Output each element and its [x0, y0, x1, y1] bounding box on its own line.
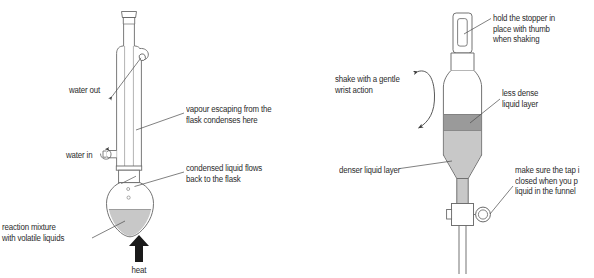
label-water-out-text: water out	[69, 85, 100, 95]
label-less-dense-line1: less dense	[502, 88, 538, 99]
label-tap-closed: make sure the tap i closed when you p li…	[515, 165, 589, 197]
label-hold-stopper-line3: when shaking	[493, 34, 555, 45]
shake-arrow	[418, 71, 435, 128]
condenser-inner-tube	[124, 24, 135, 46]
label-water-in: water in	[66, 150, 92, 161]
label-condensed-liquid-line2: back to the flask	[186, 174, 262, 185]
label-condensed-liquid: condensed liquid flows back to the flask	[186, 163, 262, 184]
reflux-apparatus-group	[92, 12, 184, 263]
chemistry-apparatus-figure: water out vapour escaping from the flask…	[0, 0, 594, 278]
stopper	[453, 13, 472, 53]
label-denser-liquid-text: denser liquid layer	[339, 165, 400, 175]
label-tap-closed-line2: closed when you p	[515, 176, 589, 187]
stopcock-tap	[447, 204, 491, 226]
label-heat: heat	[125, 265, 153, 276]
label-water-out: water out	[69, 85, 100, 96]
condenser-outer-jacket	[117, 46, 142, 168]
label-hold-stopper-line2: place with thumb	[493, 24, 555, 35]
tap-handle	[474, 207, 491, 222]
label-vapour-escaping-line2: flask condenses here	[186, 115, 271, 126]
label-reaction-mixture-line1: reaction mixture	[2, 222, 64, 233]
funnel-neck	[451, 53, 474, 71]
reaction-liquid	[109, 210, 151, 236]
label-shake-gentle-line1: shake with a gentle	[335, 74, 400, 85]
label-tap-closed-line3: liquid in the funnel	[515, 186, 589, 197]
less-dense-liquid-layer	[444, 115, 481, 132]
label-reaction-mixture: reaction mixture with volatile liquids	[2, 222, 64, 243]
denser-liquid-layer	[444, 131, 481, 178]
separating-funnel-group	[400, 13, 513, 274]
label-less-dense-line2: liquid layer	[502, 99, 538, 110]
label-reaction-mixture-line2: with volatile liquids	[2, 233, 64, 244]
label-hold-stopper-line1: hold the stopper in	[493, 13, 555, 24]
label-less-dense: less dense liquid layer	[502, 88, 538, 109]
label-heat-text: heat	[132, 265, 147, 275]
label-shake-gentle-line2: wrist action	[335, 85, 400, 96]
funnel-stem-upper	[457, 179, 468, 204]
label-vapour-escaping-line1: vapour escaping from the	[186, 104, 271, 115]
ground-glass-joint-top	[122, 12, 137, 25]
label-shake-gentle: shake with a gentle wrist action	[335, 74, 400, 95]
label-denser-liquid: denser liquid layer	[339, 165, 400, 176]
pear-shaped-flask	[107, 176, 154, 237]
label-tap-closed-line1: make sure the tap i	[515, 165, 589, 176]
heat-arrow	[129, 235, 149, 262]
funnel-stem-lower	[459, 226, 466, 275]
label-hold-stopper: hold the stopper in place with thumb whe…	[493, 13, 555, 45]
water-in-side-arm	[103, 151, 117, 158]
label-condensed-liquid-line1: condensed liquid flows	[186, 163, 262, 174]
label-vapour-escaping: vapour escaping from the flask condenses…	[186, 104, 271, 125]
label-water-in-text: water in	[66, 150, 92, 160]
